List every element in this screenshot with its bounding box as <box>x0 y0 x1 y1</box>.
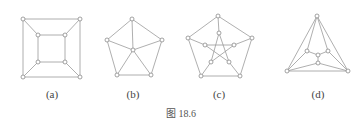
graph-edge-c <box>219 33 229 62</box>
graph-vertex-c <box>186 36 190 40</box>
graph-vertex-c <box>238 74 242 78</box>
panel-label-c: (c) <box>213 88 225 100</box>
graph-vertex-d <box>346 69 350 73</box>
graph-edge-d <box>287 16 317 71</box>
graph-edge-c <box>218 16 252 38</box>
graph-vertex-c <box>250 36 254 40</box>
graph-vertex-d <box>305 49 309 53</box>
graph-edge-b <box>132 19 133 50</box>
graph-vertex-c <box>227 60 231 64</box>
graph-edge-c <box>229 62 240 76</box>
graph-edge-d <box>307 16 317 51</box>
graph-edge-c <box>188 16 218 38</box>
graph-edge-a <box>65 19 80 35</box>
graph-edge-d <box>317 16 348 71</box>
graph-edge-a <box>23 62 38 77</box>
graph-vertex-c <box>217 31 221 35</box>
graph-vertex-a <box>78 75 82 79</box>
graph-edges <box>23 16 348 77</box>
graph-edge-c <box>188 38 205 45</box>
graph-vertex-d <box>316 61 320 65</box>
graph-edge-a <box>23 19 38 35</box>
graph-edge-c <box>218 16 219 33</box>
graph-edge-c <box>201 62 211 76</box>
graph-edge-c <box>240 38 252 76</box>
panel-label-b: (b) <box>127 88 140 100</box>
graph-vertex-a <box>63 60 67 64</box>
graph-edge-b <box>133 50 151 75</box>
graph-edge-b <box>107 40 133 50</box>
panel-label-a: (a) <box>46 88 58 100</box>
graph-vertex-b <box>130 17 134 21</box>
graph-vertex-d <box>316 53 320 57</box>
graph-edge-d <box>287 63 318 71</box>
graph-vertex-b <box>115 73 119 77</box>
graph-vertex-d <box>326 49 330 53</box>
graph-vertex-b <box>105 38 109 42</box>
graph-edge-c <box>211 45 234 62</box>
graph-vertex-c <box>232 43 236 47</box>
graph-edge-c <box>205 45 229 62</box>
panel-label-d: (d) <box>312 88 325 100</box>
graph-vertex-b <box>160 38 164 42</box>
graph-vertex-a <box>36 60 40 64</box>
graph-vertex-a <box>78 17 82 21</box>
graph-vertex-c <box>203 43 207 47</box>
graph-vertex-d <box>285 69 289 73</box>
graph-edge-a <box>65 62 80 77</box>
graph-vertex-a <box>63 33 67 37</box>
graph-vertex-a <box>21 17 25 21</box>
graph-vertex-b <box>149 73 153 77</box>
graph-edge-b <box>132 19 162 40</box>
graph-edge-b <box>107 19 132 40</box>
figure-caption: 图 18.6 <box>166 105 196 120</box>
graph-edge-b <box>133 40 162 50</box>
graph-edge-d <box>287 51 307 71</box>
graph-edge-c <box>234 38 252 45</box>
graph-edge-c <box>188 38 201 76</box>
graph-edge-c <box>211 33 219 62</box>
graph-edge-b <box>107 40 117 75</box>
graph-edge-b <box>151 40 162 75</box>
graph-edge-b <box>117 50 133 75</box>
graph-edge-d <box>317 16 328 51</box>
graph-vertex-b <box>131 48 135 52</box>
graph-vertex-c <box>199 74 203 78</box>
graph-vertex-a <box>21 75 25 79</box>
graph-vertex-c <box>216 14 220 18</box>
graph-vertex-a <box>36 33 40 37</box>
graph-vertex-d <box>315 14 319 18</box>
graph-vertex-c <box>209 60 213 64</box>
